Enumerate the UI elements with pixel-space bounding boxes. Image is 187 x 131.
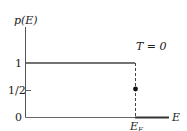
half-point: [133, 87, 138, 92]
x-axis-label: E: [171, 111, 180, 124]
y-axis-label: p(E): [14, 14, 38, 27]
temperature-annotation: T = 0: [136, 40, 167, 53]
tick-label-half: 1/2: [8, 84, 26, 97]
fermi-chart: p(E) 1 1/2 0 T = 0 E EF: [0, 0, 187, 131]
fermi-energy-label: EF: [129, 120, 144, 131]
tick-label-one: 1: [15, 57, 22, 70]
tick-label-zero: 0: [15, 111, 22, 124]
